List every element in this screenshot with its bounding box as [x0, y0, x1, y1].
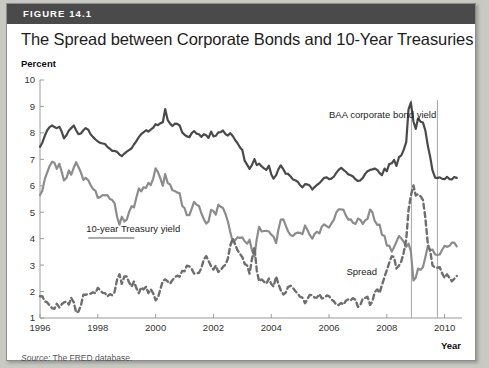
x-tick-label: 2004 — [261, 322, 282, 333]
x-tick-label: 1998 — [87, 322, 108, 333]
x-axis-title: Year — [441, 340, 461, 351]
y-tick-label: 4 — [30, 233, 35, 244]
source-word: Source: — [21, 353, 50, 363]
y-tick-label: 3 — [30, 260, 35, 271]
x-tick-label: 2010 — [434, 322, 455, 333]
figure-card: FIGURE 14.1 The Spread between Corporate… — [6, 3, 476, 361]
y-tick-label: 10 — [24, 74, 35, 85]
y-tick-label: 6 — [30, 180, 35, 191]
chart-svg: 1234567891019961998200020022004200620082… — [7, 4, 477, 362]
baa-label: BAA corporate bond yield — [329, 109, 436, 120]
y-tick-label: 7 — [30, 154, 35, 165]
source-note: Source: The FRED database. — [21, 353, 132, 363]
chart-plot-area: 1234567891019961998200020022004200620082… — [7, 4, 477, 362]
x-tick-label: 2000 — [145, 322, 166, 333]
y-tick-label: 2 — [30, 286, 35, 297]
source-text: The FRED database. — [50, 353, 132, 363]
x-tick-label: 2002 — [203, 322, 224, 333]
x-tick-label: 2008 — [376, 322, 397, 333]
y-tick-label: 5 — [30, 207, 35, 218]
spread-label: Spread — [346, 266, 377, 277]
y-tick-label: 9 — [30, 101, 35, 112]
treasury-label: 10-year Treasury yield — [86, 223, 180, 234]
x-tick-label: 1996 — [29, 322, 50, 333]
x-tick-label: 2006 — [318, 322, 339, 333]
y-tick-label: 8 — [30, 127, 35, 138]
